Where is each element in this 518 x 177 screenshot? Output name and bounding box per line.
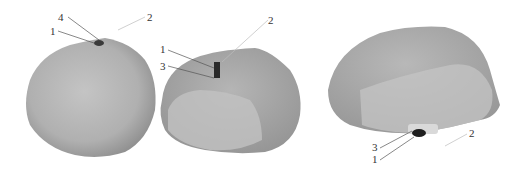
leader-line <box>380 131 412 148</box>
panel-angle-view: 2 1 3 <box>160 14 301 153</box>
component-1-icon <box>412 129 426 137</box>
label-3: 3 <box>372 141 378 153</box>
label-2: 2 <box>147 11 153 23</box>
label-2: 2 <box>268 14 274 26</box>
leader-line <box>380 137 414 160</box>
label-1: 1 <box>372 153 378 165</box>
body-shape <box>26 38 156 157</box>
label-3: 3 <box>160 60 166 72</box>
component-4-icon <box>94 40 104 46</box>
component-1-icon <box>214 62 220 78</box>
panel-front-view: 4 1 2 <box>26 11 156 157</box>
label-4: 4 <box>58 11 64 23</box>
leader-line <box>68 17 99 40</box>
label-1: 1 <box>160 43 166 55</box>
patent-figure: 4 1 2 2 1 3 2 3 1 <box>0 0 518 177</box>
panel-side-view: 2 3 1 <box>328 27 500 165</box>
leader-line <box>58 31 94 43</box>
label-1: 1 <box>50 25 56 37</box>
label-2: 2 <box>469 127 475 139</box>
leader-line <box>445 134 467 146</box>
leader-line <box>118 17 145 30</box>
